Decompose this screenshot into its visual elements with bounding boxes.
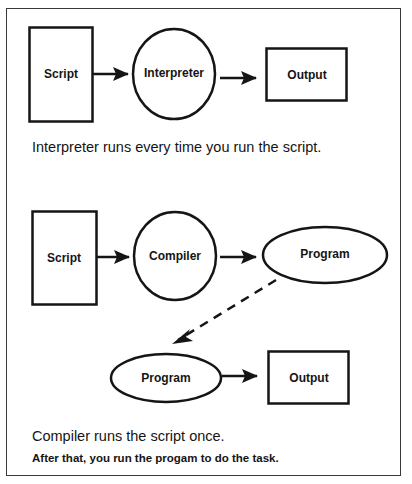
program-node-bottom: Program xyxy=(111,354,221,402)
compiler-caption-bold: After that, you run the progam to do the… xyxy=(32,452,279,464)
script-node-bottom: Script xyxy=(33,212,97,305)
output-node-top: Output xyxy=(267,49,347,101)
interpreter-flow: Script Interpreter Output xyxy=(30,28,347,122)
program-node-top: Program xyxy=(263,227,387,283)
compiler-caption: Compiler runs the script once. xyxy=(32,428,225,444)
compiler-flow: Script Compiler Program Program xyxy=(33,212,388,404)
output-node-bottom-label: Output xyxy=(289,371,328,385)
diagram-canvas: Script Interpreter Output Script Compile… xyxy=(0,0,412,484)
compiler-node: Compiler xyxy=(134,212,216,300)
interpreter-caption: Interpreter runs every time you run the … xyxy=(32,139,321,155)
script-node-top: Script xyxy=(30,28,93,122)
program-node-top-label: Program xyxy=(300,247,349,261)
compiler-node-label: Compiler xyxy=(149,249,201,263)
script-node-top-label: Script xyxy=(44,67,78,81)
interpreter-node: Interpreter xyxy=(133,29,215,119)
script-node-bottom-label: Script xyxy=(47,251,81,265)
output-node-top-label: Output xyxy=(287,68,326,82)
interpreter-node-label: Interpreter xyxy=(144,66,204,80)
output-node-bottom: Output xyxy=(269,352,349,404)
program-node-bottom-label: Program xyxy=(141,371,190,385)
